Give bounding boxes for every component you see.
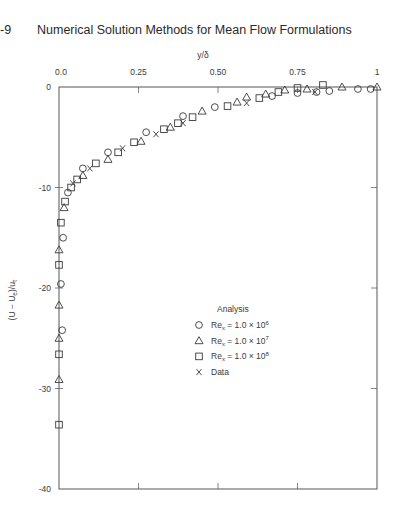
x-marker	[120, 145, 125, 151]
series-x	[70, 89, 317, 186]
circle-marker	[60, 234, 67, 241]
circle-marker	[326, 88, 333, 95]
legend-title: Analysis	[217, 304, 249, 314]
y-axis-label: (U − Ue)/uτ	[7, 279, 18, 320]
legend-entry: Data	[196, 367, 229, 377]
square-marker	[175, 120, 182, 127]
y-tick-label: -40	[39, 484, 52, 494]
x-marker	[87, 165, 92, 171]
square-marker	[62, 198, 69, 205]
legend-entry: Rex = 1.0 × 106	[196, 320, 270, 332]
x-marker	[153, 131, 158, 137]
page-header: -9 Numerical Solution Methods for Mean F…	[0, 23, 352, 37]
legend-label: Rex = 1.0 × 107	[211, 335, 270, 347]
legend-label: Rex = 1.0 × 108	[211, 351, 270, 363]
triangle-marker	[198, 107, 206, 114]
triangle-marker	[233, 98, 241, 105]
figure: -9 Numerical Solution Methods for Mean F…	[0, 0, 395, 505]
triangle-marker	[243, 93, 251, 100]
square-marker	[93, 160, 100, 167]
x-tick-label: 0.25	[130, 67, 147, 77]
circle-marker	[269, 93, 276, 100]
square-marker	[224, 103, 231, 110]
triangle-marker	[137, 137, 145, 144]
x-axis-label: y/δ	[197, 50, 209, 60]
y-tick-label: 0	[46, 82, 51, 92]
x-tick-label: 0.0	[55, 67, 67, 77]
circle-legend-icon	[196, 322, 203, 329]
square-marker	[161, 126, 168, 133]
x-tick-label: 1	[375, 67, 380, 77]
triangle-marker	[303, 85, 311, 92]
x-legend-icon	[196, 369, 201, 375]
axis-ticks	[55, 87, 377, 489]
legend-entry: Rex = 1.0 × 107	[195, 335, 270, 347]
square-legend-icon	[196, 353, 203, 360]
square-marker	[275, 89, 282, 96]
square-marker	[189, 114, 196, 121]
series-circle	[58, 86, 375, 334]
x-tick-label: 0.75	[289, 67, 306, 77]
tick-labels: 0.00.250.500.7510-10-20-30-40	[39, 67, 380, 494]
legend-label: Rex = 1.0 × 106	[211, 320, 270, 332]
circle-marker	[211, 104, 218, 111]
plot-frame	[59, 87, 377, 489]
triangle-marker	[104, 155, 112, 162]
y-tick-label: -10	[39, 183, 52, 193]
page-number: -9	[0, 23, 11, 37]
circle-marker	[143, 129, 150, 136]
page-title: Numerical Solution Methods for Mean Flow…	[37, 23, 352, 37]
square-marker	[256, 95, 263, 102]
square-marker	[115, 149, 122, 156]
x-marker	[244, 100, 249, 106]
legend-label: Data	[211, 367, 229, 377]
circle-marker	[59, 327, 66, 334]
y-tick-label: -20	[39, 283, 52, 293]
triangle-legend-icon	[195, 337, 203, 344]
x-tick-label: 0.50	[210, 67, 227, 77]
y-tick-label: -30	[39, 384, 52, 394]
legend-entry: Rex = 1.0 × 108	[196, 351, 270, 363]
legend: Analysis Rex = 1.0 × 106Rex = 1.0 × 107R…	[195, 304, 270, 377]
circle-marker	[180, 113, 187, 120]
series-square	[56, 82, 327, 428]
x-marker	[70, 180, 75, 186]
